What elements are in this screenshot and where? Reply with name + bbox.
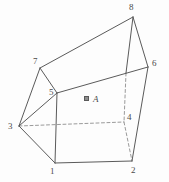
edge-1-5	[55, 93, 57, 163]
hidden-edge-3-4	[19, 122, 124, 126]
face-label-a: A	[93, 95, 99, 104]
edge-8-6	[133, 17, 148, 67]
edge-8-4-visible-part	[126, 17, 133, 73]
vertex-label-2: 2	[131, 166, 136, 175]
hidden-edge-group	[19, 73, 132, 161]
edge-1-2	[55, 161, 132, 163]
edge-7-8	[40, 17, 133, 68]
vertex-label-7: 7	[33, 57, 38, 66]
vertex-label-3: 3	[8, 122, 13, 131]
geometry-figure: 12345678 A	[0, 0, 169, 182]
vertex-label-4: 4	[127, 113, 132, 122]
edge-1-3	[19, 126, 55, 163]
edge-5-6	[57, 67, 148, 93]
figure-canvas	[0, 0, 169, 182]
hidden-edge-4-8	[124, 73, 126, 122]
vertex-label-1: 1	[50, 167, 55, 176]
vertex-label-6: 6	[152, 59, 157, 68]
vertex-label-5: 5	[49, 88, 54, 97]
edge-6-2	[132, 67, 148, 161]
hidden-edge-4-2	[124, 122, 132, 161]
solid-edge-group	[19, 17, 148, 163]
vertex-label-8: 8	[129, 3, 134, 12]
face-marker-icon	[84, 96, 89, 101]
